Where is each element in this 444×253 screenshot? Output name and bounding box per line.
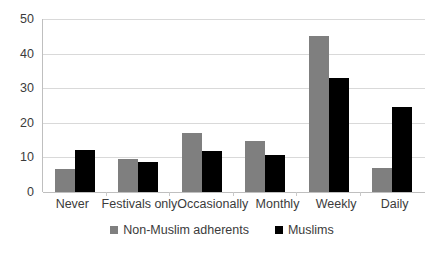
bar: [329, 78, 349, 192]
bar-chart: 50 40 30 20 10 0 NeverFestivals onlyOcca…: [0, 0, 444, 253]
bar-group: [43, 19, 107, 192]
y-axis-tick-label: 20: [0, 117, 34, 130]
y-axis-tick-label: 40: [0, 47, 34, 60]
legend-item[interactable]: Non-Muslim adherents: [110, 224, 249, 237]
legend-item[interactable]: Muslims: [275, 224, 334, 237]
bar-group: [107, 19, 171, 192]
bar: [138, 162, 158, 192]
bar: [182, 133, 202, 192]
x-axis-tick-label: Never: [43, 198, 102, 211]
y-axis-tick-label: 10: [0, 151, 34, 164]
x-axis-tick-label: Monthly: [248, 198, 307, 211]
x-axis-tick: [233, 192, 234, 196]
black-square-icon: [275, 226, 283, 234]
bar-group: [170, 19, 234, 192]
bar: [372, 168, 392, 192]
bar: [265, 155, 285, 192]
x-axis-tick: [360, 192, 361, 196]
x-axis-tick-label: Festivals only: [102, 198, 178, 211]
bar: [55, 169, 75, 192]
x-axis-tick-label: Daily: [365, 198, 424, 211]
gray-square-icon: [110, 226, 118, 234]
x-axis-tick-label: Weekly: [307, 198, 366, 211]
bar: [392, 107, 412, 192]
bar-group: [361, 19, 425, 192]
bar: [202, 151, 222, 192]
bar-groups: [43, 19, 424, 192]
bar: [245, 141, 265, 192]
x-axis-tick: [106, 192, 107, 196]
x-axis-tick: [296, 192, 297, 196]
bar: [118, 159, 138, 192]
bar-group: [297, 19, 361, 192]
y-axis-tick-label: 30: [0, 82, 34, 95]
y-axis-tick-label: 50: [0, 13, 34, 26]
x-axis-tick-label: Occasionally: [177, 198, 248, 211]
legend-item-label: Non-Muslim adherents: [123, 224, 249, 237]
bar-group: [234, 19, 298, 192]
bar: [309, 36, 329, 192]
legend-item-label: Muslims: [288, 224, 334, 237]
x-axis-baseline: [43, 192, 425, 193]
bar: [75, 150, 95, 192]
y-axis-labels: 50 40 30 20 10 0: [0, 19, 36, 192]
x-axis-tick: [169, 192, 170, 196]
x-axis-labels: NeverFestivals onlyOccasionallyMonthlyWe…: [43, 198, 424, 211]
chart-legend: Non-Muslim adherentsMuslims: [0, 224, 444, 237]
y-axis-tick-label: 0: [0, 186, 34, 199]
